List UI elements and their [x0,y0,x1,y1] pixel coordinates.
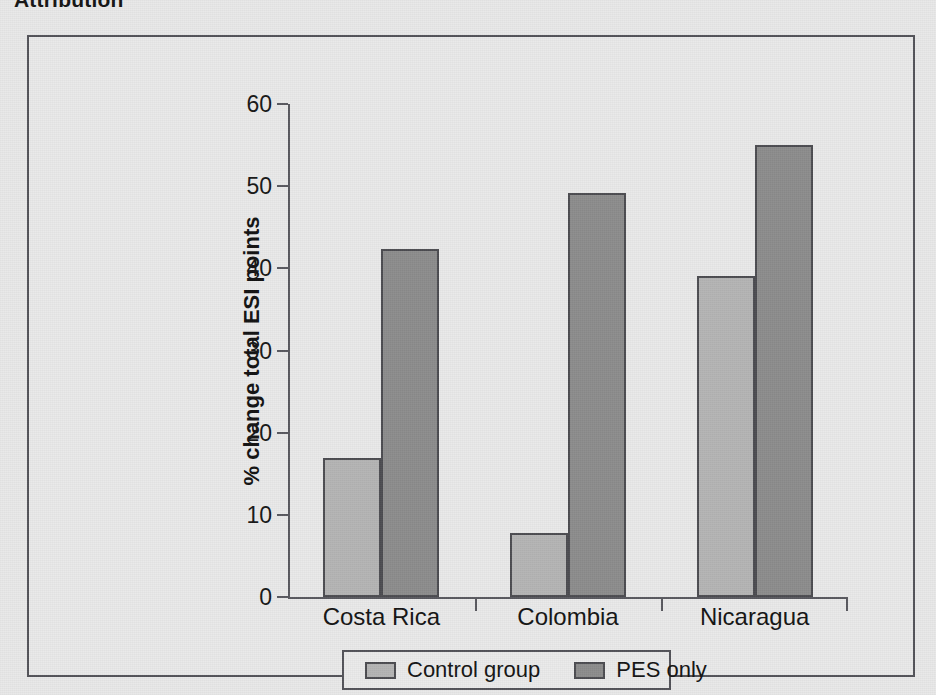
y-tick-label: 60 [246,91,272,118]
legend-item: Control group [365,657,540,683]
y-tick: 30 [277,350,288,352]
page-heading: Attribution [14,0,124,12]
y-tick: 60 [277,103,288,105]
y-tick: 50 [277,185,288,187]
x-axis-label-costa-rica: Costa Rica [323,603,440,631]
y-tick-label: 10 [246,501,272,528]
x-axis-label-nicaragua: Nicaragua [700,603,809,631]
y-tick-label: 40 [246,255,272,282]
bar-costa-rica-pes-only [381,249,439,597]
bar-nicaragua-control-group [697,276,755,597]
bar-colombia-pes-only [568,193,626,597]
y-tick-label: 30 [246,337,272,364]
y-tick: 20 [277,432,288,434]
legend-swatch-pes [574,662,605,679]
y-tick: 10 [277,514,288,516]
legend-label: Control group [407,657,540,683]
x-axis-label-colombia: Colombia [517,603,618,631]
bars-layer [288,104,848,597]
legend-label: PES only [616,657,707,683]
figure-frame: % change total ESI points 0102030405060 … [27,35,915,677]
y-tick-label: 20 [246,419,272,446]
bar-nicaragua-pes-only [755,145,813,597]
x-axis-category-labels: Costa RicaColombiaNicaragua [288,603,848,637]
chart-legend: Control groupPES only [342,650,671,690]
legend-swatch-control [365,662,396,679]
y-tick: 40 [277,267,288,269]
bar-costa-rica-control-group [323,458,381,597]
bar-colombia-control-group [510,533,568,597]
x-axis-line [288,597,848,599]
y-tick: 0 [277,596,288,598]
legend-item: PES only [574,657,707,683]
plot-area: 0102030405060 [288,104,848,597]
y-tick-label: 0 [259,584,272,611]
y-tick-label: 50 [246,173,272,200]
